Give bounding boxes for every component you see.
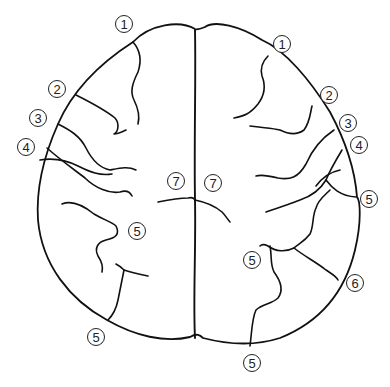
marker-5-right-edge: 5: [360, 190, 378, 208]
brain-diagram: 1 1 2 2 3 3 4 4 5 5 5 5 5 6 7 7: [0, 0, 390, 387]
vessel-right-7: [195, 200, 230, 222]
marker-5-right-center: 5: [243, 251, 261, 269]
vessel-left-2: [76, 95, 126, 134]
marker-3-right: 3: [339, 114, 357, 132]
vessel-right-5a: [326, 180, 356, 197]
marker-2-right: 2: [320, 86, 338, 104]
vessel-right-6: [294, 248, 338, 280]
marker-5-bottom-left: 5: [87, 328, 105, 346]
marker-1-right: 1: [273, 35, 291, 53]
vessel-left-5: [62, 203, 118, 272]
marker-5-left-center: 5: [128, 222, 146, 240]
marker-5-bottom-right: 5: [243, 354, 261, 372]
brain-drawing: [0, 0, 390, 387]
vessel-right-4: [266, 150, 342, 212]
vessel-left-1: [132, 42, 140, 124]
marker-4-right: 4: [350, 136, 368, 154]
vessel-right-3: [256, 130, 334, 179]
marker-7-right: 7: [204, 174, 222, 192]
vessel-left-5c: [108, 270, 124, 320]
marker-6-right: 6: [346, 274, 364, 292]
vessel-right-2: [250, 106, 312, 134]
marker-4-left: 4: [17, 138, 35, 156]
marker-3-left: 3: [29, 109, 47, 127]
vessel-left-5b: [116, 264, 148, 276]
longitudinal-fissure: [194, 30, 195, 338]
marker-2-left: 2: [48, 80, 66, 98]
vessel-right-5c: [260, 245, 294, 251]
marker-7-left: 7: [167, 172, 185, 190]
marker-1-left: 1: [115, 15, 133, 33]
vessel-right-5b: [294, 190, 330, 248]
brain-outline: [38, 24, 360, 344]
vessel-right-1: [234, 56, 268, 118]
vessel-left-7: [158, 198, 195, 202]
